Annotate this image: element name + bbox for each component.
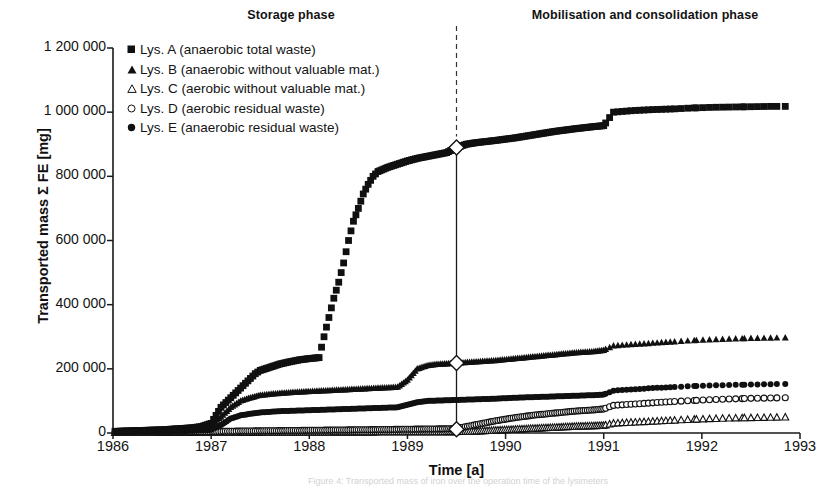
data-point bbox=[713, 415, 720, 421]
data-point bbox=[713, 396, 719, 402]
data-point bbox=[761, 381, 767, 387]
data-point bbox=[700, 397, 706, 403]
data-point bbox=[700, 383, 706, 389]
data-point bbox=[754, 395, 760, 401]
data-point bbox=[318, 344, 325, 351]
data-point bbox=[719, 415, 726, 421]
data-point bbox=[340, 260, 347, 267]
data-point bbox=[782, 395, 788, 401]
data-point bbox=[773, 103, 780, 110]
data-point bbox=[782, 414, 789, 420]
data-point bbox=[741, 382, 747, 388]
data-point bbox=[706, 397, 712, 403]
data-point bbox=[328, 304, 335, 311]
data-point bbox=[326, 314, 333, 321]
data-point bbox=[706, 104, 713, 111]
data-point bbox=[747, 335, 754, 341]
data-point bbox=[741, 396, 747, 402]
data-point bbox=[782, 334, 789, 340]
data-point bbox=[782, 103, 789, 110]
data-point bbox=[773, 414, 780, 420]
data-point bbox=[706, 415, 713, 421]
data-point bbox=[748, 382, 754, 388]
plot-area bbox=[0, 0, 835, 488]
data-point bbox=[713, 382, 719, 388]
data-point bbox=[767, 414, 774, 420]
data-point bbox=[773, 334, 780, 340]
x-tick-label: 1993 bbox=[770, 438, 830, 454]
data-point bbox=[732, 414, 739, 420]
x-tick-label: 1986 bbox=[83, 438, 143, 454]
data-point bbox=[316, 354, 323, 361]
data-point bbox=[350, 218, 357, 225]
data-point bbox=[719, 336, 726, 342]
data-point bbox=[720, 396, 726, 402]
data-point bbox=[678, 416, 685, 422]
data-point bbox=[754, 334, 761, 340]
data-point bbox=[353, 211, 360, 218]
data-point bbox=[726, 415, 733, 421]
data-point bbox=[343, 248, 350, 255]
data-point bbox=[348, 227, 355, 234]
data-point bbox=[761, 395, 767, 401]
data-point bbox=[767, 103, 774, 110]
data-point bbox=[782, 381, 788, 387]
data-point bbox=[321, 333, 328, 340]
data-point bbox=[672, 398, 678, 404]
data-point bbox=[768, 395, 774, 401]
x-tick-label: 1989 bbox=[377, 438, 437, 454]
data-point bbox=[693, 383, 699, 389]
data-point bbox=[720, 382, 726, 388]
data-point bbox=[338, 269, 345, 276]
data-point bbox=[761, 414, 768, 420]
data-point bbox=[754, 103, 761, 110]
data-point bbox=[768, 381, 774, 387]
phase-connector-diamond-marker bbox=[449, 356, 464, 371]
data-point bbox=[330, 295, 337, 302]
data-point bbox=[684, 105, 691, 112]
data-point bbox=[678, 398, 684, 404]
data-point bbox=[693, 104, 700, 111]
data-point bbox=[355, 205, 362, 212]
data-point bbox=[741, 103, 748, 110]
data-point bbox=[761, 334, 768, 340]
data-point bbox=[699, 336, 706, 342]
data-point bbox=[748, 103, 755, 110]
data-point bbox=[713, 104, 720, 111]
x-tick-label: 1991 bbox=[574, 438, 634, 454]
data-point bbox=[685, 398, 691, 404]
data-point bbox=[719, 104, 726, 111]
data-point bbox=[671, 105, 678, 112]
data-point bbox=[671, 338, 678, 344]
data-point bbox=[726, 382, 732, 388]
data-point bbox=[335, 279, 342, 286]
data-point bbox=[678, 384, 684, 390]
figure-caption: Figure 4: Transported mass of iron over … bbox=[113, 476, 803, 486]
data-point bbox=[726, 335, 733, 341]
data-point bbox=[699, 415, 706, 421]
data-point bbox=[713, 336, 720, 342]
data-point bbox=[672, 384, 678, 390]
x-tick-label: 1990 bbox=[476, 438, 536, 454]
x-tick-label: 1988 bbox=[279, 438, 339, 454]
data-point bbox=[706, 336, 713, 342]
data-point bbox=[726, 104, 733, 111]
data-point bbox=[333, 287, 340, 294]
data-point bbox=[685, 383, 691, 389]
data-point bbox=[726, 396, 732, 402]
data-point bbox=[684, 337, 691, 343]
data-point bbox=[733, 396, 739, 402]
data-point bbox=[767, 334, 774, 340]
data-point bbox=[706, 383, 712, 389]
data-point bbox=[323, 324, 330, 331]
data-point bbox=[700, 104, 707, 111]
figure-container: Storage phase Mobilisation and consolida… bbox=[0, 0, 835, 488]
data-point bbox=[678, 338, 685, 344]
data-point bbox=[733, 382, 739, 388]
data-point bbox=[732, 335, 739, 341]
data-point bbox=[357, 198, 364, 205]
data-point bbox=[754, 414, 761, 420]
data-point bbox=[732, 104, 739, 111]
data-point bbox=[678, 105, 685, 112]
x-tick-label: 1987 bbox=[181, 438, 241, 454]
